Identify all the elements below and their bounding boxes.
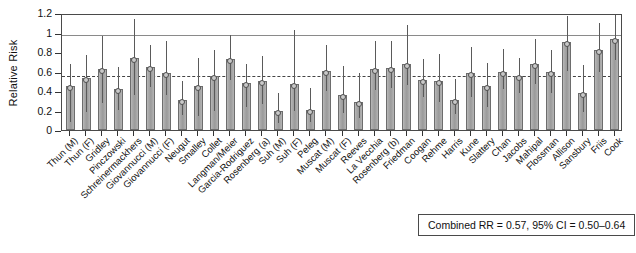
point-estimate-marker [436, 80, 442, 86]
forest-bar-chart: Relative Risk 00.20.40.60.811.2 Thun (M)… [0, 0, 636, 253]
x-axis-tick [518, 131, 519, 136]
y-axis-tick-label: 0.8 [6, 46, 52, 58]
x-axis-tick [534, 131, 535, 136]
x-axis-tick [470, 131, 471, 136]
y-axis-tick-label: 0.2 [6, 105, 52, 117]
x-axis-tick [342, 131, 343, 136]
combined-rr-annotation: Combined RR = 0.57, 95% CI = 0.50–0.64 [418, 214, 635, 236]
x-axis-tick [374, 131, 375, 136]
x-axis-tick [502, 131, 503, 136]
confidence-interval-whisker [343, 66, 344, 114]
confidence-interval-whisker [391, 41, 392, 88]
point-estimate-marker [452, 99, 458, 105]
point-estimate-marker [580, 92, 586, 98]
point-estimate-marker [404, 63, 410, 69]
confidence-interval-whisker [294, 30, 295, 111]
confidence-interval-whisker [326, 45, 327, 91]
point-estimate-marker [596, 49, 602, 55]
confidence-interval-whisker [375, 41, 376, 90]
point-estimate-marker [532, 63, 538, 69]
confidence-interval-whisker [503, 49, 504, 89]
y-axis-tick-label: 0.4 [6, 85, 52, 97]
point-estimate-marker [548, 71, 554, 77]
point-estimate-marker [99, 68, 105, 74]
y-axis-tick-label: 0 [6, 124, 52, 136]
confidence-interval-whisker [70, 64, 71, 123]
x-axis-tick [358, 131, 359, 136]
x-axis-tick [550, 131, 551, 136]
confidence-interval-whisker [407, 25, 408, 85]
point-estimate-marker [356, 101, 362, 107]
point-estimate-marker [131, 57, 137, 63]
confidence-interval-whisker [535, 39, 536, 84]
y-axis-tick-label: 0.6 [6, 66, 52, 78]
confidence-interval-whisker [310, 88, 311, 122]
x-axis-tick [406, 131, 407, 136]
confidence-interval-whisker [583, 65, 584, 112]
point-estimate-marker [147, 66, 153, 72]
point-estimate-marker [340, 94, 346, 100]
point-estimate-marker [484, 85, 490, 91]
point-estimate-marker [307, 109, 313, 115]
point-estimate-marker [179, 99, 185, 105]
y-axis-tick-label: 1 [6, 27, 52, 39]
x-axis-tick [390, 131, 391, 136]
null-effect-line [62, 35, 621, 36]
x-axis-tick [454, 131, 455, 136]
point-estimate-marker [388, 67, 394, 73]
confidence-interval-whisker [599, 23, 600, 72]
point-estimate-marker [500, 71, 506, 77]
x-axis-tick [438, 131, 439, 136]
x-axis-tick [486, 131, 487, 136]
confidence-interval-whisker [86, 55, 87, 112]
confidence-interval-whisker [359, 73, 360, 119]
confidence-interval-whisker [423, 59, 424, 97]
x-axis-tick [422, 131, 423, 136]
confidence-interval-whisker [278, 93, 279, 123]
point-estimate-marker [372, 68, 378, 74]
confidence-interval-whisker [455, 79, 456, 114]
confidence-interval-whisker [439, 54, 440, 102]
point-estimate-marker [420, 79, 426, 85]
y-axis-tick [55, 131, 61, 132]
x-axis-tick [566, 131, 567, 136]
plot-area [61, 14, 622, 131]
y-axis-tick-label: 1.2 [6, 7, 52, 19]
confidence-interval-whisker [166, 41, 167, 95]
